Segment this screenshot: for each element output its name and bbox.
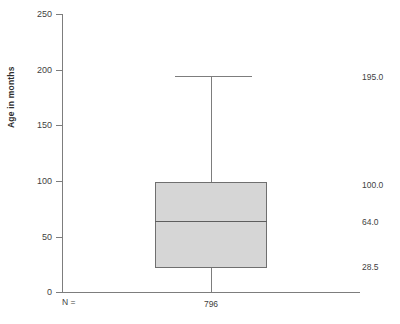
- value-annotation-q3: 100.0: [362, 181, 383, 190]
- group-count-label: 796: [186, 300, 236, 309]
- n-equals-label: N =: [62, 298, 75, 307]
- value-annotation-whisker-high: 195.0: [362, 73, 383, 82]
- y-axis-line: [62, 14, 63, 293]
- upper-whisker-stem: [211, 76, 212, 182]
- y-tick-label-250: 250: [12, 10, 52, 19]
- y-tick-label-0: 0: [12, 288, 52, 297]
- y-tick-mark-250: [56, 14, 62, 15]
- value-annotation-q1: 28.5: [362, 263, 379, 272]
- y-tick-mark-200: [56, 70, 62, 71]
- x-tick-mark: [211, 286, 212, 292]
- box-rectangle: [155, 182, 267, 268]
- y-tick-mark-100: [56, 181, 62, 182]
- y-axis-title: Age in months: [6, 66, 16, 128]
- upper-whisker-cap: [175, 76, 252, 77]
- y-tick-mark-150: [56, 125, 62, 126]
- boxplot-figure: Age in months 250 200 150 100 50 0 195.0…: [0, 0, 400, 324]
- y-tick-label-100: 100: [12, 177, 52, 186]
- x-axis-line: [62, 292, 360, 293]
- y-tick-label-150: 150: [12, 121, 52, 130]
- y-tick-mark-0: [56, 292, 62, 293]
- y-tick-mark-50: [56, 237, 62, 238]
- y-tick-label-50: 50: [12, 233, 52, 242]
- value-annotation-median: 64.0: [362, 218, 379, 227]
- median-line: [155, 221, 267, 222]
- y-tick-label-200: 200: [12, 66, 52, 75]
